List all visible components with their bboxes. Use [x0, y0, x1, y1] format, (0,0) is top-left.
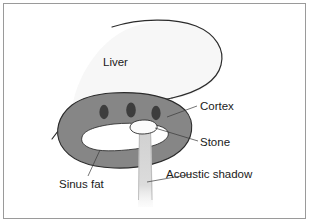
figure-root: Liver Cortex Stone Sinus fat Acoustic sh… — [0, 0, 310, 223]
calyx-middle — [126, 102, 136, 117]
label-cortex: Cortex — [200, 100, 234, 112]
label-liver: Liver — [103, 56, 128, 68]
calyx-right — [151, 106, 160, 120]
liver-shape — [73, 21, 222, 106]
stone-structure — [130, 120, 157, 134]
calyx-left — [99, 105, 108, 119]
label-stone: Stone — [200, 136, 230, 148]
stone-shape — [130, 120, 157, 134]
label-acoustic-shadow: Acoustic shadow — [166, 168, 253, 180]
label-sinus-fat: Sinus fat — [59, 178, 105, 190]
kidney-structure — [58, 93, 192, 168]
acoustic-shadow-structure — [138, 129, 153, 207]
anatomy-diagram: Liver Cortex Stone Sinus fat Acoustic sh… — [0, 0, 310, 223]
